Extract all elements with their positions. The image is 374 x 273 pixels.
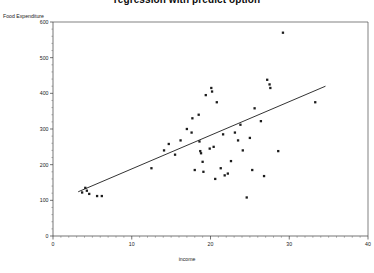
- data-point: [199, 150, 201, 152]
- x-tick-label: 0: [52, 241, 55, 247]
- data-point: [209, 147, 211, 149]
- data-point: [224, 174, 226, 176]
- data-point: [230, 160, 232, 162]
- data-point: [246, 196, 248, 198]
- data-point: [210, 87, 212, 89]
- data-point: [214, 178, 216, 180]
- y-tick-label: 500: [40, 55, 49, 61]
- x-axis: 010203040: [52, 236, 371, 247]
- data-point: [81, 191, 83, 193]
- data-point: [191, 117, 193, 119]
- y-tick-label: 300: [40, 126, 49, 132]
- data-point: [268, 83, 270, 85]
- data-point: [249, 137, 251, 139]
- x-tick-label: 20: [208, 241, 214, 247]
- data-point: [314, 101, 316, 103]
- data-point: [227, 172, 229, 174]
- fitted-line: [78, 86, 325, 192]
- y-axis: 0100200300400500600: [40, 19, 53, 239]
- y-tick-label: 200: [40, 162, 49, 168]
- x-tick-label: 40: [365, 241, 371, 247]
- data-point: [239, 124, 241, 126]
- data-point: [242, 149, 244, 151]
- data-point: [86, 190, 88, 192]
- data-point: [202, 171, 204, 173]
- y-tick-label: 0: [46, 233, 49, 239]
- data-point: [174, 154, 176, 156]
- data-point: [150, 167, 152, 169]
- data-point: [234, 131, 236, 133]
- data-point: [168, 143, 170, 145]
- data-point: [269, 87, 271, 89]
- data-point: [277, 150, 279, 152]
- data-point: [282, 32, 284, 34]
- x-tick-label: 30: [286, 241, 292, 247]
- data-point: [251, 169, 253, 171]
- scatter-plot-canvas: 0100200300400500600 010203040: [0, 0, 374, 273]
- data-point: [96, 195, 98, 197]
- data-point: [205, 94, 207, 96]
- data-point: [190, 131, 192, 133]
- data-point: [163, 149, 165, 151]
- data-point: [216, 101, 218, 103]
- data-point: [260, 120, 262, 122]
- data-point: [198, 114, 200, 116]
- data-point: [179, 139, 181, 141]
- data-point: [213, 146, 215, 148]
- data-point: [194, 169, 196, 171]
- y-tick-label: 100: [40, 197, 49, 203]
- data-point: [237, 139, 239, 141]
- data-point: [253, 107, 255, 109]
- data-point: [101, 195, 103, 197]
- chart-figure: regression with predict option Food Expe…: [0, 0, 374, 273]
- y-tick-label: 400: [40, 90, 49, 96]
- data-point: [220, 167, 222, 169]
- data-point: [186, 128, 188, 130]
- data-point: [211, 90, 213, 92]
- data-point: [263, 175, 265, 177]
- data-point: [222, 133, 224, 135]
- data-point: [266, 79, 268, 81]
- data-points: [81, 32, 316, 199]
- data-point: [200, 152, 202, 154]
- y-tick-label: 600: [40, 19, 49, 25]
- regression-line: [78, 86, 325, 192]
- data-point: [88, 193, 90, 195]
- plot-frame: [53, 22, 368, 236]
- data-point: [201, 161, 203, 163]
- x-tick-label: 10: [129, 241, 135, 247]
